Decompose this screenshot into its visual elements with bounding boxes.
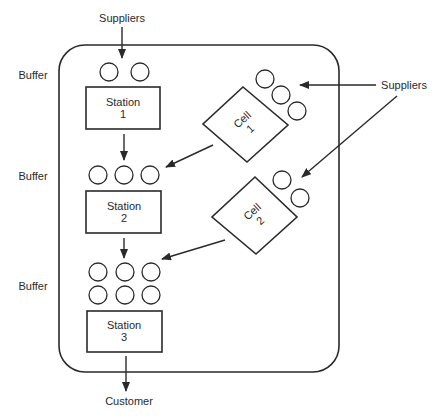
station-3-label: Station (107, 319, 141, 331)
station-2: Station 2 (86, 191, 161, 233)
buffer-item (89, 286, 107, 304)
suppliers-top-label: Suppliers (99, 12, 145, 24)
customer-label: Customer (105, 395, 153, 407)
station-3-number: 3 (121, 331, 127, 343)
buffer-item (131, 63, 149, 81)
buffer-1-label: Buffer (18, 69, 47, 81)
buffer-item (141, 166, 159, 184)
station-2-number: 2 (121, 212, 127, 224)
buffer-1 (100, 63, 149, 81)
buffer-item (100, 63, 118, 81)
buffer-item (142, 263, 160, 281)
buffer-item (89, 166, 107, 184)
suppliers-right-label: Suppliers (381, 79, 427, 91)
buffer-item (115, 166, 133, 184)
station-1-number: 1 (120, 108, 126, 120)
buffer-2-label: Buffer (18, 170, 47, 182)
buffer-item (291, 189, 309, 207)
buffer-item (256, 70, 274, 88)
buffer-item (272, 86, 290, 104)
buffer-item (288, 102, 306, 120)
buffer-item (89, 263, 107, 281)
cell-2-to-buffer-3-arrow (162, 240, 225, 259)
station-1-label: Station (106, 96, 140, 108)
buffer-3 (89, 263, 160, 304)
station-1: Station 1 (86, 87, 160, 129)
buffer-item (116, 286, 134, 304)
production-flow-diagram: Suppliers Buffer Buffer Buffer Station 1… (0, 0, 442, 416)
station-3: Station 3 (87, 311, 162, 352)
station-2-label: Station (107, 200, 141, 212)
buffer-2 (89, 166, 159, 184)
buffer-3-label: Buffer (18, 280, 47, 292)
cell-1-to-buffer-2-arrow (166, 145, 213, 167)
suppliers-to-cell-2-arrow (302, 96, 397, 177)
buffer-item (116, 263, 134, 281)
buffer-item (273, 171, 291, 189)
buffer-item (142, 286, 160, 304)
